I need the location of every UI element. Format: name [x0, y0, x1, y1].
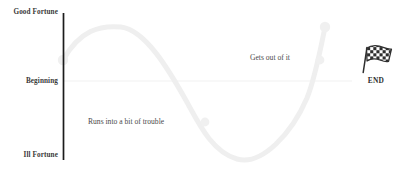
annotation-gets-out-of-it: Gets out of it — [250, 54, 290, 62]
story-arc-chart: Good Fortune Beginning Ill Fortune Runs … — [0, 0, 399, 175]
y-axis-label-good-fortune: Good Fortune — [13, 9, 58, 16]
y-axis-label-ill-fortune: Ill Fortune — [24, 152, 58, 159]
annotation-runs-into-trouble: Runs into a bit of trouble — [88, 118, 164, 126]
marker-end — [320, 22, 330, 32]
checkered-flag-icon — [360, 44, 394, 74]
end-caption-label: END — [358, 77, 394, 84]
y-axis-label-beginning: Beginning — [26, 78, 58, 85]
chart-plot-area — [0, 0, 399, 175]
marker-gets-out-of-it — [316, 56, 325, 65]
end-marker: END — [358, 44, 398, 94]
fortune-curve — [63, 27, 325, 160]
marker-runs-into-trouble — [201, 118, 210, 127]
